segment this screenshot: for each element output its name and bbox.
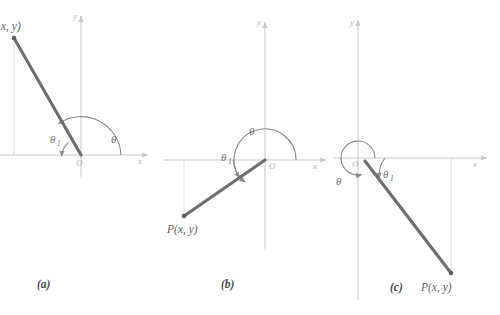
panel-a-origin-label: O	[76, 158, 83, 168]
panel-c-x-axis-label: x	[472, 159, 477, 169]
panel-a-x-axis-label: x	[137, 156, 142, 166]
panel-c: x y O θ θ 1 P(x, y) (c)	[333, 17, 487, 300]
panel-c-theta1-label: θ	[383, 168, 389, 180]
panel-c-theta1-subscript: 1	[390, 174, 394, 183]
panel-c-segment	[365, 161, 451, 273]
panel-b-theta-label: θ	[249, 125, 255, 137]
panel-b-segment	[184, 160, 265, 216]
panel-a-segment	[14, 38, 81, 155]
panel-b-point-marker	[182, 214, 187, 219]
panel-c-point-label: P(x, y)	[420, 281, 452, 294]
panel-b: x y O θ θ 1 P(x, y) (b)	[163, 17, 326, 291]
geometry-figure: x y O θ θ 1 x, y) (a) x y O	[0, 0, 500, 315]
panel-a-theta1-label-group: θ 1	[50, 133, 61, 148]
panel-b-theta1-label-group: θ 1	[221, 151, 232, 166]
panel-a-theta1-label: θ	[50, 133, 56, 145]
panel-c-origin-label: O	[352, 159, 359, 169]
panel-c-caption: (c)	[390, 281, 403, 294]
panel-b-y-axis-label: y	[256, 17, 261, 27]
panel-b-theta1-subscript: 1	[228, 157, 232, 166]
panel-a-y-axis-label: y	[72, 11, 77, 21]
panel-a-point-marker	[12, 36, 17, 41]
panel-b-x-axis-label: x	[312, 161, 317, 171]
panel-c-theta1-label-group: θ 1	[383, 168, 394, 183]
panel-a-theta1-subscript: 1	[57, 139, 61, 148]
panel-a-theta-label: θ	[111, 133, 117, 145]
panel-a: x y O θ θ 1 x, y) (a)	[0, 11, 148, 291]
panel-a-theta1-arc	[62, 143, 69, 157]
panel-a-caption: (a)	[37, 278, 51, 291]
panel-c-point-marker	[449, 271, 454, 276]
panel-b-origin-label: O	[269, 161, 276, 171]
panel-b-point-label: P(x, y)	[166, 223, 198, 236]
panel-b-theta1-label: θ	[221, 151, 227, 163]
panel-a-point-label: x, y)	[0, 20, 21, 33]
figure-canvas: x y O θ θ 1 x, y) (a) x y O	[0, 0, 500, 315]
panel-b-caption: (b)	[221, 278, 235, 291]
panel-c-y-axis-label: y	[349, 17, 354, 27]
panel-c-theta-label: θ	[336, 175, 342, 187]
